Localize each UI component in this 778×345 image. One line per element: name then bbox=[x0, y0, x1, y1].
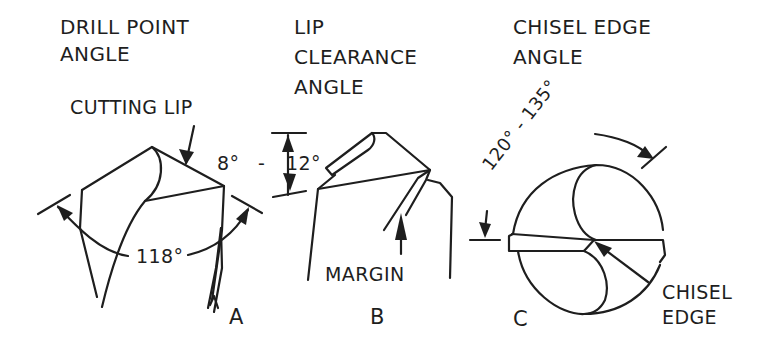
drill-geometry-diagram: DRILL POINT ANGLE CUTTING LIP 118° A LIP… bbox=[0, 0, 778, 345]
drill-b-outline bbox=[308, 133, 452, 280]
chisel-edge-angle-dimension bbox=[470, 134, 666, 240]
margin-arrow bbox=[395, 213, 407, 254]
chisel-edge-arrow bbox=[594, 241, 648, 282]
cutting-lip-arrow bbox=[179, 126, 194, 165]
drill-c-end-view bbox=[509, 165, 665, 314]
drill-a-outline bbox=[80, 147, 224, 312]
lip-clearance-angle-dimension bbox=[272, 133, 306, 197]
drill-point-angle-dimension bbox=[38, 195, 262, 256]
